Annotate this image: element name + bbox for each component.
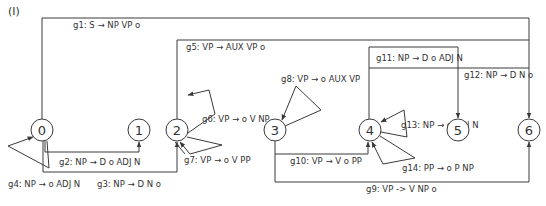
node-4: 4 (359, 119, 381, 141)
edge-label-g5: g5: VP → AUX VP o (186, 42, 265, 52)
node-2: 2 (166, 119, 188, 141)
node-label-2: 2 (173, 123, 181, 138)
edge-g2: g2: NP → D o ADJ N (45, 141, 140, 167)
edge-g8: g8: VP → o AUX VP (281, 74, 360, 126)
node-label-4: 4 (366, 123, 374, 138)
edge-label-g1: g1: S → NP VP o (73, 20, 140, 30)
edge-label-g11: g11: NP → D o ADJ N (376, 53, 463, 63)
edge-label-g7: g7: VP → o V PP (184, 155, 251, 165)
node-label-0: 0 (38, 123, 46, 138)
node-5: 5 (447, 119, 469, 141)
edge-label-g8: g8: VP → o AUX VP (281, 74, 360, 84)
edge-g11: g11: NP → D o ADJ N (369, 47, 463, 119)
edge-label-g12: g12: NP → D N o (464, 70, 533, 80)
node-6: 6 (518, 119, 540, 141)
edge-label-g3: g3: NP → D N o (97, 179, 161, 189)
edge-label-g9: g9: VP -> V NP o (366, 184, 437, 194)
node-label-6: 6 (525, 123, 533, 138)
state-transition-diagram: (I) g1: S → NP VP o g5: VP → AUX VP o g1… (0, 0, 546, 206)
panel-label: (I) (8, 5, 20, 18)
node-label-1: 1 (135, 123, 143, 138)
edge-g10: g10: VP → V o PP (275, 141, 368, 166)
node-3: 3 (264, 119, 286, 141)
node-0: 0 (31, 119, 53, 141)
edge-g12: g12: NP → D N o (369, 68, 533, 80)
node-label-5: 5 (454, 123, 462, 138)
node-1: 1 (128, 119, 150, 141)
edge-g7: g7: VP → o V PP (175, 137, 251, 165)
node-label-3: 3 (271, 123, 279, 138)
edge-g14: g14: PP → o P NP (372, 136, 474, 173)
edge-label-g10: g10: VP → V o PP (290, 156, 362, 166)
edge-label-g4: g4: NP → o ADJ N (8, 179, 80, 189)
edge-label-g2: g2: NP → D o ADJ N (59, 157, 140, 167)
edge-g6: g6: VP → o V NP (188, 90, 270, 133)
edge-label-g14: g14: PP → o P NP (402, 163, 474, 173)
edge-label-g6: g6: VP → o V NP (202, 114, 270, 124)
